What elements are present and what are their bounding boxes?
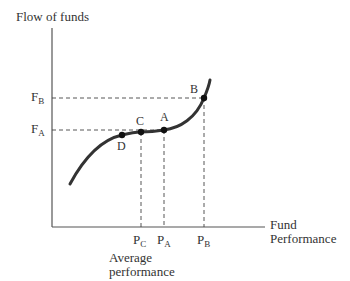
- x-tick-pb-sub: B: [204, 239, 210, 249]
- y-tick-fb-sub: B: [38, 96, 44, 106]
- x-tick-pb: PB: [197, 233, 210, 251]
- x-tick-pc-sub: C: [140, 239, 146, 249]
- point-b-label: B: [190, 82, 198, 97]
- x-axis-label-line2: Performance: [270, 232, 336, 246]
- point-d: [119, 132, 125, 138]
- point-a-label: A: [160, 110, 169, 125]
- point-c-label: C: [136, 114, 144, 129]
- x-tick-pa-sub: A: [164, 239, 171, 249]
- y-tick-fa-sub: A: [38, 128, 45, 138]
- point-c: [138, 129, 144, 135]
- x-tick-pa: PA: [157, 233, 171, 251]
- point-d-label: D: [117, 139, 126, 154]
- y-axis-label: Flow of funds: [16, 10, 89, 24]
- y-tick-fb: FB: [31, 90, 44, 108]
- point-b: [201, 95, 207, 101]
- x-tick-pc: PC: [133, 233, 146, 251]
- average-performance-label-line1: Average: [109, 251, 152, 265]
- point-a: [161, 127, 167, 133]
- y-tick-fa: FA: [31, 122, 45, 140]
- x-axis-label-line1: Fund: [270, 218, 297, 232]
- average-performance-label-line2: performance: [109, 265, 175, 279]
